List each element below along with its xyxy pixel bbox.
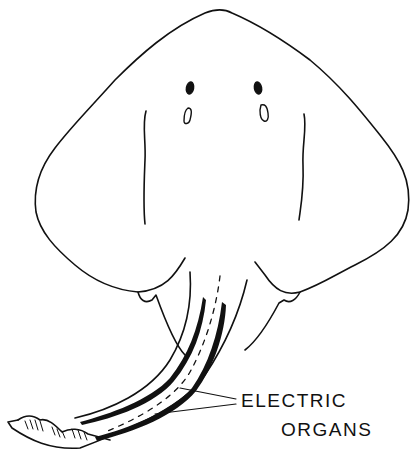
- tail-outline-upper: [75, 272, 190, 418]
- electric-organs: [80, 297, 226, 441]
- right-spiracle: [260, 105, 268, 121]
- left-spiracle: [184, 108, 191, 124]
- right-eye: [254, 81, 263, 94]
- left-body-line: [144, 111, 146, 224]
- right-body-line: [299, 114, 305, 220]
- electric-organs-label-line2: ORGANS: [281, 420, 372, 439]
- disc-outline: [35, 10, 409, 293]
- electric-ray-illustration: ELECTRIC ORGANS: [0, 0, 416, 458]
- electric-organs-label-line1: ELECTRIC: [241, 391, 347, 410]
- left-eye: [186, 81, 195, 94]
- tail-fin-hatching: [25, 420, 87, 440]
- right-pelvic-fin: [245, 292, 300, 350]
- ray-drawing: [0, 0, 416, 458]
